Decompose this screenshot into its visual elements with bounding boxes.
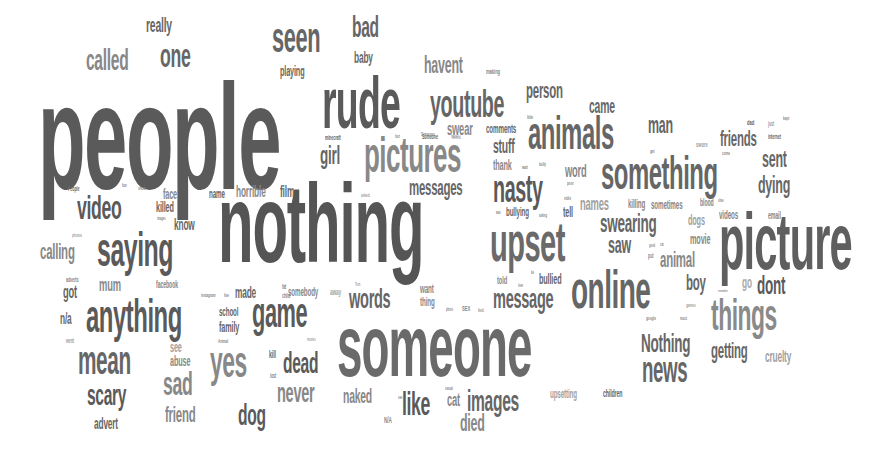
cloud-word: remember <box>718 289 728 293</box>
cloud-word: love <box>518 283 523 288</box>
cloud-word: instagram <box>201 292 215 298</box>
cloud-word: dead <box>283 348 318 378</box>
cloud-word: lost <box>270 372 276 379</box>
cloud-word: called <box>86 45 128 75</box>
cloud-word: nasty <box>493 170 543 208</box>
cloud-word: Animal <box>218 338 228 344</box>
cloud-word: cruelty <box>765 349 791 365</box>
cloud-word: vidio <box>564 195 571 201</box>
cloud-word: like <box>402 386 430 420</box>
cloud-word: man <box>648 113 673 137</box>
cloud-word: be <box>531 270 534 275</box>
cloud-word: was <box>496 210 501 215</box>
cloud-word: person <box>526 80 563 102</box>
cloud-word: photo <box>446 307 453 312</box>
cloud-word: hurt <box>395 134 400 139</box>
cloud-word: car <box>660 242 664 247</box>
cloud-word: children <box>603 389 622 399</box>
cloud-word: words <box>349 285 390 313</box>
cloud-word: havent <box>424 53 463 77</box>
cloud-word: names <box>580 195 609 213</box>
cloud-word: kill <box>269 350 276 360</box>
cloud-word: girl <box>320 142 340 168</box>
cloud-word: making <box>486 68 500 76</box>
cloud-word: dying <box>758 173 790 197</box>
cloud-word: little <box>527 114 533 120</box>
cloud-word: saying <box>97 226 173 274</box>
cloud-word: n/a <box>60 311 72 327</box>
cloud-word: bullying <box>506 206 529 218</box>
cloud-word: dont <box>757 272 785 298</box>
cloud-word: mum <box>99 276 121 294</box>
cloud-word: name <box>209 188 225 200</box>
cloud-word: saw <box>608 233 631 257</box>
cloud-word: abuse <box>170 354 190 368</box>
cloud-word: someone <box>337 302 531 390</box>
cloud-word: killing <box>628 198 645 210</box>
cloud-word: movies <box>307 337 316 342</box>
cloud-word: People <box>68 185 80 192</box>
cloud-word: dogs <box>688 213 705 227</box>
cloud-word: facebook <box>156 280 178 290</box>
cloud-word: messages <box>409 177 463 199</box>
cloud-word: mean <box>78 340 131 380</box>
cloud-word: want <box>420 283 434 295</box>
cloud-word: sad <box>163 366 192 400</box>
cloud-word: bully <box>539 161 546 167</box>
cloud-word: never <box>277 379 314 407</box>
cloud-word: got <box>63 283 77 301</box>
cloud-word: advert <box>94 416 118 432</box>
cloud-word: games <box>686 302 696 308</box>
cloud-word: horrid <box>452 134 461 140</box>
cloud-word: baby <box>354 50 373 66</box>
cloud-word: put <box>648 252 653 259</box>
cloud-word: online <box>571 262 650 316</box>
cloud-word: show <box>138 185 146 191</box>
cloud-word: somebody <box>288 286 318 298</box>
cloud-word: family <box>219 320 239 334</box>
cloud-word: go <box>742 275 752 291</box>
cloud-word: see <box>398 395 402 400</box>
cloud-word: minecraft <box>325 134 341 141</box>
cloud-word: upsetting <box>550 388 577 400</box>
cloud-word: one <box>160 38 190 72</box>
cloud-word: blood <box>700 198 714 208</box>
cloud-word: upset <box>490 214 565 270</box>
cloud-word: dog <box>238 400 266 430</box>
cloud-word: N/A <box>384 416 392 425</box>
cloud-word: Nothing <box>641 330 690 356</box>
cloud-word: good <box>649 243 655 248</box>
cloud-word: get <box>650 148 654 154</box>
cloud-word: scary <box>87 380 126 410</box>
cloud-word: Someone <box>421 131 435 137</box>
cloud-word: adverts <box>66 276 78 283</box>
cloud-word: wait <box>522 164 528 170</box>
cloud-word: cat <box>447 391 460 409</box>
cloud-word: message <box>493 285 553 313</box>
cloud-word: died <box>460 411 485 435</box>
cloud-word: stuff <box>493 136 514 156</box>
cloud-word: naked <box>343 386 372 406</box>
cloud-word: live <box>224 292 229 298</box>
cloud-word: sent <box>762 147 787 171</box>
cloud-word: images <box>157 216 166 221</box>
cloud-word: video <box>77 190 121 224</box>
cloud-word: Tom <box>355 282 360 287</box>
cloud-word: picture <box>719 202 852 282</box>
cloud-word: see <box>170 340 182 354</box>
cloud-word: killed <box>156 200 174 214</box>
cloud-word: thing <box>420 296 435 308</box>
cloud-word: movie <box>690 232 710 246</box>
cloud-word: went <box>66 337 74 344</box>
cloud-word: sometimes <box>651 199 682 211</box>
cloud-word: videos <box>719 209 738 221</box>
cloud-word: friends <box>720 128 757 150</box>
cloud-word: horrible <box>236 184 266 200</box>
cloud-word: asked <box>361 192 370 198</box>
cloud-word: friend <box>165 404 195 426</box>
cloud-word: shes <box>718 198 724 203</box>
cloud-word: food <box>478 308 483 313</box>
cloud-word: really <box>146 15 172 35</box>
cloud-word: poor <box>567 180 574 186</box>
cloud-word: swore <box>696 141 708 149</box>
